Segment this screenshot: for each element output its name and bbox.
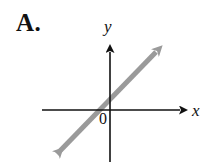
plotted-line-series: [57, 52, 156, 154]
x-axis-label: x: [192, 102, 200, 119]
origin-label: 0: [99, 111, 107, 127]
y-axis-label: y: [104, 18, 112, 35]
panel-letter-label: A.: [16, 10, 41, 35]
graph-figure-panel-a: A. y x 0: [0, 0, 210, 162]
